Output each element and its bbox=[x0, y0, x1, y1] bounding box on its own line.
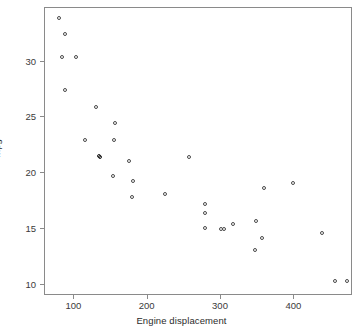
x-axis-tick-label: 300 bbox=[212, 300, 228, 311]
chart-title bbox=[0, 0, 363, 1]
y-axis-tick-label: 25 bbox=[16, 111, 36, 122]
y-axis-tick-label: 10 bbox=[16, 278, 36, 289]
y-axis-tick-label: 15 bbox=[16, 223, 36, 234]
x-axis-tick bbox=[293, 295, 294, 299]
y-axis-tick bbox=[40, 284, 44, 285]
y-axis-tick bbox=[40, 116, 44, 117]
scatter-plot: Engine displacement mpg 1002003004001015… bbox=[0, 0, 363, 332]
x-axis-label: Engine displacement bbox=[0, 315, 363, 326]
y-axis-tick bbox=[40, 172, 44, 173]
y-axis-tick bbox=[40, 61, 44, 62]
x-axis-tick-label: 100 bbox=[65, 300, 81, 311]
x-axis-tick bbox=[147, 295, 148, 299]
y-axis-tick-label: 20 bbox=[16, 167, 36, 178]
y-axis-tick bbox=[40, 228, 44, 229]
x-axis-tick-label: 200 bbox=[139, 300, 155, 311]
y-axis-label: mpg bbox=[0, 139, 2, 157]
x-axis-tick bbox=[73, 295, 74, 299]
x-axis-tick-label: 400 bbox=[285, 300, 301, 311]
y-axis-tick-label: 30 bbox=[16, 55, 36, 66]
plot-frame bbox=[44, 7, 352, 295]
x-axis-tick bbox=[220, 295, 221, 299]
